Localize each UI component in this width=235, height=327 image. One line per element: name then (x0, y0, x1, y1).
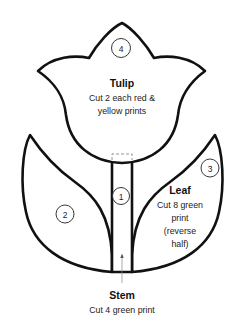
leaf-title: Leaf (169, 184, 191, 196)
svg-text:2: 2 (63, 210, 68, 220)
svg-text:1: 1 (119, 192, 124, 202)
tulip-pattern-diagram: 4 1 2 3 Tulip Cut 2 each red & yellow pr… (0, 0, 235, 327)
piece-number-4: 4 (112, 39, 131, 58)
svg-text:3: 3 (208, 164, 213, 174)
piece-number-3: 3 (201, 159, 219, 177)
leaf-instruction-4: half) (171, 239, 188, 249)
leaf-instruction-3: (reverse (164, 226, 196, 236)
stem-title: Stem (109, 289, 135, 301)
stem-instruction-1: Cut 4 green print (89, 305, 155, 315)
svg-text:4: 4 (119, 44, 124, 54)
piece-number-2: 2 (56, 205, 74, 223)
tulip-instruction-2: yellow prints (98, 106, 147, 116)
tulip-instruction-1: Cut 2 each red & (89, 93, 155, 103)
leaf-instruction-2: print (171, 213, 189, 223)
leaf-instruction-1: Cut 8 green (157, 200, 203, 210)
tulip-title: Tulip (110, 77, 134, 89)
piece-number-1: 1 (113, 188, 130, 205)
